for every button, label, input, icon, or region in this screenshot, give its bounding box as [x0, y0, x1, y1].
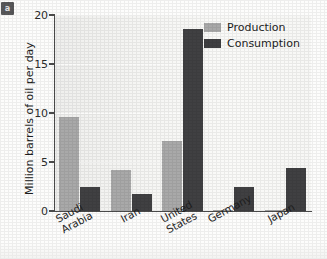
legend-swatch-production [204, 23, 221, 32]
y-axis-tick-label-10: 10 [2, 107, 48, 120]
y-axis-tick-20 [49, 14, 54, 15]
y-axis-tick-label-20: 20 [2, 9, 48, 22]
bar-production-2 [162, 141, 182, 211]
y-axis-tick-label-0: 0 [2, 205, 48, 218]
y-axis-tick-labels: 05101520 [0, 0, 48, 259]
y-axis-tick-label-5: 5 [2, 156, 48, 169]
y-axis-tick-10 [49, 112, 54, 113]
y-axis-tick-15 [49, 63, 54, 64]
y-axis-tick-0 [49, 210, 54, 211]
legend-item-production: Production [204, 21, 300, 34]
legend-item-consumption: Consumption [204, 37, 300, 50]
chart-legend: ProductionConsumption [204, 21, 300, 50]
page-edge-shading [0, 243, 327, 259]
legend-label-production: Production [227, 21, 286, 34]
legend-label-consumption: Consumption [227, 37, 300, 50]
y-axis-tick-label-15: 15 [2, 58, 48, 71]
gridline-20 [54, 15, 311, 16]
bar-production-0 [59, 117, 79, 211]
y-axis-tick-5 [49, 161, 54, 162]
bar-consumption-2 [183, 29, 203, 211]
bar-chart-figure: Million barrels of oil per day 05101520 … [0, 0, 327, 259]
legend-swatch-consumption [204, 39, 221, 48]
y-axis-line [54, 14, 55, 212]
bar-production-1 [111, 170, 131, 211]
